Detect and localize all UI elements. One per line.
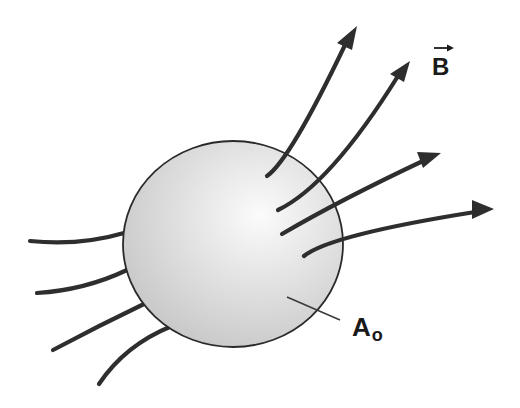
- field-line-in-3: [53, 303, 146, 350]
- vector-arrow-icon: [433, 43, 455, 53]
- area-symbol: A: [352, 312, 371, 342]
- area-subscript: o: [372, 325, 383, 345]
- magnetic-field-label: B: [432, 55, 449, 79]
- field-line-in-2: [37, 270, 127, 293]
- field-symbol: B: [432, 53, 449, 80]
- arrowhead-icon: [417, 152, 441, 168]
- arrowhead-icon: [390, 61, 410, 82]
- closed-surface-sphere: [123, 141, 343, 347]
- field-line-in-1: [30, 233, 124, 242]
- arrowhead-icon: [337, 26, 357, 50]
- field-line-in-4: [99, 326, 172, 384]
- surface-area-label: Ao: [352, 314, 382, 340]
- arrowhead-icon: [472, 200, 494, 219]
